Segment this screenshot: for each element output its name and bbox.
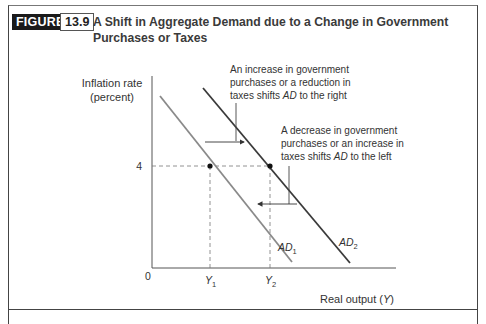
y-axis-label-line2: (percent) — [90, 91, 134, 103]
origin-label: 0 — [145, 270, 151, 282]
point-ad2-y2 — [267, 163, 272, 168]
annotation-right-line2: purchases or a reduction in — [230, 77, 351, 88]
annotation-left-line1: A decrease in government — [281, 125, 397, 136]
y-tick-4: 4 — [136, 160, 142, 172]
ad2-label: AD2 — [338, 236, 358, 251]
x-tick-y1: Y1 — [205, 274, 216, 289]
annotation-left-line2: purchases or an increase in — [281, 138, 404, 149]
annotation-right-line3: taxes shifts AD to the right — [230, 90, 347, 101]
ad1-label: AD1 — [277, 241, 297, 256]
ad2-curve — [203, 88, 350, 263]
annotation-right-line1: An increase in government — [230, 64, 349, 75]
ad-shift-chart: Inflation rate (percent) 4 0 Y1 Y2 Real … — [0, 0, 486, 324]
y-axis-label-line1: Inflation rate — [82, 77, 143, 89]
ad1-curve — [160, 96, 292, 262]
annotation-left-line3: taxes shifts AD to the left — [281, 151, 392, 162]
x-tick-y2: Y2 — [265, 274, 276, 289]
point-ad1-y1 — [207, 163, 212, 168]
x-axis-label: Real output (Y) — [320, 293, 394, 305]
